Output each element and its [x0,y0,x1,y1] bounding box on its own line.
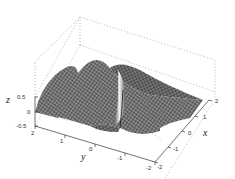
x-tick: -1 [173,146,179,152]
x-tick: 0 [188,130,192,136]
surface-plot: z 0.5 0 -0.5 2 1 0 -1 -2 y -2 -1 0 1 2 x [0,0,235,179]
y-tick: 0 [89,146,93,152]
z-tick: -0.5 [16,123,27,129]
y-axis-label: y [80,151,86,162]
x-axis-label: x [202,127,208,138]
z-tick: 0 [27,109,31,115]
y-tick: 2 [31,130,35,136]
z-axis-label: z [5,94,10,105]
x-tick: 1 [203,114,207,120]
y-tick: -2 [146,165,152,171]
x-tick: 2 [215,98,219,104]
z-tick: 0.5 [17,94,26,100]
y-tick: 1 [60,138,64,144]
x-tick: -2 [157,164,163,170]
mesh-surface [35,60,203,134]
y-tick: -1 [117,155,123,161]
